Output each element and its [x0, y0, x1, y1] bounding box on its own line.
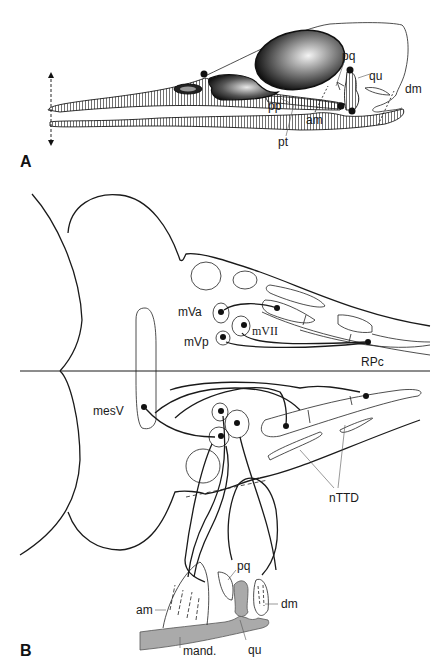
panel-b-brainstem: mVa mVII mVp RPc mesV — [20, 194, 430, 659]
panel-label-b: B — [20, 642, 32, 659]
nucleus-oval — [233, 271, 257, 289]
quadrate-b — [234, 581, 248, 617]
quadrate-bone — [345, 72, 359, 110]
label-mvp: mVp — [184, 335, 209, 349]
orbit — [251, 24, 350, 97]
joint-dot — [338, 103, 345, 110]
dm-fossa — [365, 87, 390, 95]
joint-dot — [349, 108, 356, 115]
label-pq: pq — [342, 49, 355, 63]
label-pq-b: pq — [237, 559, 250, 573]
label-dm: dm — [405, 82, 422, 96]
figure-canvas: pq qu dm pp am pt A mV — [0, 0, 444, 667]
mesv-column — [136, 308, 156, 429]
label-nttd: nTTD — [329, 491, 359, 505]
label-qu: qu — [369, 69, 382, 83]
nucleus-mvii — [232, 316, 250, 336]
dm-muscle — [254, 579, 269, 615]
joint-dot — [201, 71, 208, 78]
label-mvii: mVII — [252, 324, 278, 338]
label-am: am — [306, 113, 323, 127]
label-dm-b: dm — [281, 597, 298, 611]
label-qu-b: qu — [248, 643, 261, 657]
label-mand: mand. — [183, 644, 216, 658]
label-am-b: am — [136, 603, 153, 617]
nucleus-lower-circle — [186, 449, 220, 483]
label-pp: pp — [268, 99, 282, 113]
label-rpc: RPc — [361, 355, 384, 369]
label-mesv: mesV — [93, 404, 124, 418]
joint-dot — [347, 67, 354, 74]
panel-label-a: A — [20, 153, 32, 170]
label-mva: mVa — [178, 305, 202, 319]
am-muscle — [163, 562, 209, 628]
upper-brain-outline — [32, 194, 430, 371]
nucleus-circle — [191, 262, 221, 290]
panel-a-skull: pq qu dm pp am pt A — [20, 23, 422, 170]
label-pt: pt — [278, 135, 289, 149]
